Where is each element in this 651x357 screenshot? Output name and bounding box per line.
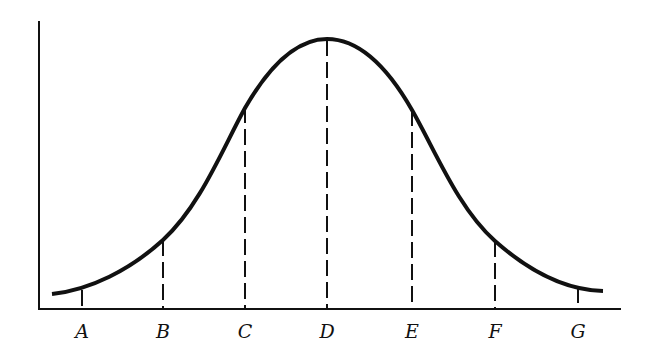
label-e: E: [404, 320, 419, 342]
bell-curve-diagram: A B C D E F G: [0, 0, 651, 357]
label-d: D: [318, 320, 334, 342]
label-f: F: [487, 320, 502, 342]
label-b: B: [155, 320, 170, 342]
dashed-guides: [82, 40, 578, 309]
label-g: G: [570, 320, 585, 342]
label-c: C: [238, 320, 253, 342]
label-a: A: [73, 320, 89, 342]
